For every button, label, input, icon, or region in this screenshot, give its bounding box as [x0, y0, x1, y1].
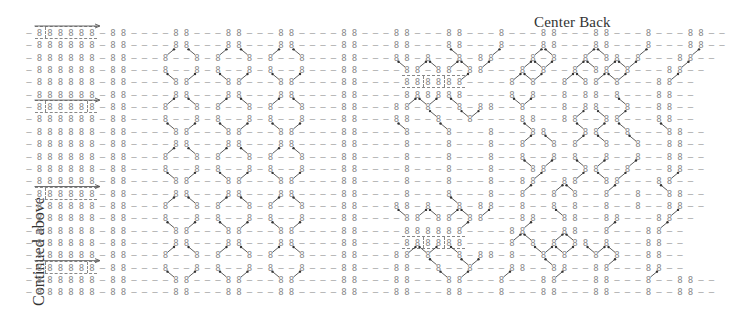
cable-cross-arrow-icon — [630, 62, 637, 67]
cable-cross-arrow-icon — [420, 210, 427, 215]
cable-cross-arrow-icon — [672, 74, 679, 79]
cable-cross-arrow-icon — [462, 272, 469, 277]
cable-cross-arrow-icon — [577, 74, 584, 79]
arrowhead-icon — [698, 48, 700, 50]
arrowhead-icon — [429, 258, 431, 260]
arrowhead-icon — [467, 73, 469, 75]
cable-cross-arrow-icon — [420, 62, 427, 67]
cable-cross-arrow-icon — [556, 210, 563, 215]
cable-cross-arrow-icon — [189, 49, 196, 54]
arrowhead-icon — [603, 159, 605, 161]
arrowhead-icon — [530, 98, 532, 100]
arrowhead-icon — [414, 246, 416, 248]
cable-cross-arrow-icon — [430, 62, 437, 67]
arrowhead-icon — [271, 73, 273, 75]
cable-cross-arrow-icon — [577, 161, 584, 166]
cable-cross-arrow-icon — [535, 74, 542, 79]
cable-cross-arrow-icon — [220, 123, 227, 128]
cable-cross-arrow-icon — [693, 49, 700, 54]
cable-cross-arrow-icon — [546, 259, 553, 264]
arrowhead-icon — [603, 246, 605, 248]
arrowhead-icon — [240, 98, 242, 100]
cable-cross-arrow-icon — [294, 247, 301, 252]
arrowhead-icon — [460, 61, 462, 63]
arrowhead-icon — [572, 73, 574, 75]
arrowhead-icon — [246, 122, 248, 124]
cable-cross-arrow-icon — [577, 111, 584, 116]
arrowhead-icon — [645, 48, 647, 50]
arrowhead-icon — [582, 61, 584, 63]
cable-cross-arrow-icon — [609, 62, 616, 67]
arrowhead-icon — [460, 258, 462, 260]
arrowhead-icon — [246, 221, 248, 223]
cable-cross-arrow-icon — [577, 123, 584, 128]
arrowhead-icon — [660, 122, 662, 124]
arrowhead-icon — [225, 196, 227, 198]
cable-cross-arrow-icon — [462, 74, 469, 79]
arrowhead-icon — [597, 48, 599, 50]
arrowhead-icon — [166, 270, 168, 272]
cable-cross-arrow-icon — [241, 148, 248, 153]
arrowhead-icon — [551, 159, 553, 161]
arrowhead-icon — [292, 196, 294, 198]
arrowhead-icon — [439, 122, 441, 124]
cable-cross-arrow-icon — [598, 111, 605, 116]
row-direction-arrow-icon — [35, 98, 101, 102]
arrowhead-icon — [540, 172, 542, 174]
cable-cross-arrow-icon — [451, 62, 458, 67]
arrowhead-icon — [519, 73, 521, 75]
cable-cross-arrow-icon — [430, 210, 437, 215]
arrowhead-icon — [488, 61, 490, 63]
cable-cross-arrow-icon — [598, 123, 605, 128]
cable-cross-arrow-icon — [294, 272, 301, 277]
arrowhead-icon — [439, 270, 441, 272]
row-direction-arrow-icon — [35, 259, 101, 263]
cable-cross-arrow-icon — [273, 123, 280, 128]
arrowhead-icon — [582, 172, 584, 174]
cable-cross-arrow-icon — [514, 235, 521, 240]
cable-cross-arrow-icon — [294, 148, 301, 153]
cable-cross-arrow-icon — [430, 259, 437, 264]
arrowhead-icon — [586, 61, 588, 63]
cable-cross-arrow-icon — [220, 49, 227, 54]
arrowhead-icon — [677, 73, 679, 75]
cable-cross-arrow-icon — [630, 161, 637, 166]
cable-cross-arrow-icon — [430, 247, 437, 252]
arrowhead-icon — [561, 233, 563, 235]
arrowhead-icon — [278, 147, 280, 149]
cable-cross-arrow-icon — [273, 222, 280, 227]
arrowhead-icon — [530, 221, 532, 223]
arrowhead-icon — [240, 246, 242, 248]
arrowhead-icon — [435, 246, 437, 248]
cable-cross-arrow-icon — [462, 222, 469, 227]
arrowhead-icon — [194, 270, 196, 272]
cable-cross-arrow-icon — [189, 198, 196, 203]
arrowhead-icon — [429, 61, 431, 63]
cable-cross-arrow-icon — [168, 247, 175, 252]
cable-cross-arrow-icon — [430, 111, 437, 116]
cable-cross-arrow-icon — [672, 173, 679, 178]
arrowhead-icon — [624, 110, 626, 112]
cable-cross-arrow-icon — [546, 247, 553, 252]
arrowhead-icon — [509, 270, 511, 272]
cable-cross-arrow-icon — [483, 62, 490, 67]
cable-cross-arrow-icon — [451, 247, 458, 252]
arrowhead-icon — [614, 258, 616, 260]
cable-cross-arrow-icon — [220, 148, 227, 153]
arrowhead-icon — [225, 48, 227, 50]
arrowhead-icon — [429, 209, 431, 211]
arrowhead-icon — [656, 270, 658, 272]
cable-cross-arrow-icon — [514, 74, 521, 79]
cable-cross-arrow-icon — [220, 198, 227, 203]
arrowhead-icon — [614, 61, 616, 63]
cable-cross-arrow-icon — [273, 198, 280, 203]
arrowhead-icon — [561, 184, 563, 186]
arrowhead-icon — [246, 73, 248, 75]
arrowhead-icon — [194, 172, 196, 174]
cable-cross-arrow-icon — [168, 272, 175, 277]
arrowhead-icon — [614, 221, 616, 223]
arrowhead-icon — [551, 61, 553, 63]
arrowhead-icon — [460, 209, 462, 211]
cable-cross-arrow-icon — [430, 99, 437, 104]
cable-cross-arrow-icon — [525, 136, 532, 141]
